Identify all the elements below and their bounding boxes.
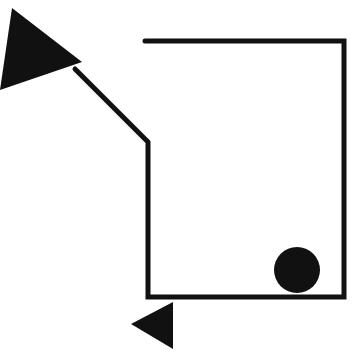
large-arrow-icon: [0, 8, 82, 90]
small-arrow-icon: [131, 302, 173, 349]
diagram-canvas: [0, 0, 357, 358]
ball-icon: [274, 247, 320, 293]
